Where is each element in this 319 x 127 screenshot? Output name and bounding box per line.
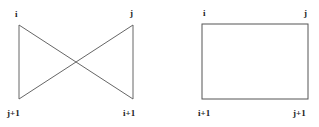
label-i-rect: i bbox=[203, 8, 206, 18]
label-j-rect: j bbox=[303, 8, 307, 18]
label-i-plus-1-rect: i+1 bbox=[198, 108, 211, 118]
crossed-diagram bbox=[19, 25, 133, 99]
label-j-plus-1-rect: j+1 bbox=[292, 108, 306, 118]
label-j-plus-1: j+1 bbox=[6, 108, 20, 118]
rectangle-diagram bbox=[202, 24, 308, 99]
label-i: i bbox=[15, 9, 18, 19]
diagram-canvas: i j j+1 i+1 i j i+1 j+1 bbox=[0, 0, 319, 127]
label-i-plus-1: i+1 bbox=[123, 108, 136, 118]
label-j: j bbox=[129, 8, 133, 18]
